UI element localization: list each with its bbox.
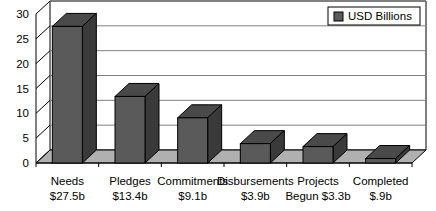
y-tick-4 xyxy=(36,51,50,64)
x-category-value-3: $3.9b xyxy=(241,190,270,202)
bar-chart-figure: 051015202530Needs$27.5bPledges$13.4bComm… xyxy=(0,0,436,211)
x-category-value-1: $13.4b xyxy=(112,190,147,202)
x-category-value-2: $9.1b xyxy=(178,190,207,202)
bar-front-face-0 xyxy=(52,26,82,163)
bar-1 xyxy=(115,83,159,163)
bar-2 xyxy=(178,105,222,163)
y-tick-label-4: 20 xyxy=(16,58,29,70)
bar-front-face-1 xyxy=(115,96,145,163)
y-tick-3 xyxy=(36,76,50,89)
legend-swatch-usd-billions xyxy=(334,12,343,21)
y-tick-label-6: 30 xyxy=(16,8,29,20)
x-category-value-5: $.9b xyxy=(369,190,391,202)
x-category-label-1: Pledges xyxy=(109,175,151,187)
y-tick-label-5: 25 xyxy=(16,33,29,45)
bar-side-face-1 xyxy=(145,83,159,163)
bar-front-face-2 xyxy=(178,118,208,163)
y-tick-2 xyxy=(36,100,50,113)
y-tick-1 xyxy=(36,125,50,138)
bar-0 xyxy=(52,13,96,163)
bar-front-face-5 xyxy=(366,159,396,163)
bar-front-face-3 xyxy=(240,144,270,163)
legend-label-usd-billions: USD Billions xyxy=(348,10,412,22)
bar-front-face-4 xyxy=(303,147,333,163)
y-tick-6 xyxy=(36,1,50,14)
legend: USD Billions xyxy=(328,7,420,25)
y-tick-label-1: 5 xyxy=(23,132,29,144)
x-category-value-0: $27.5b xyxy=(50,190,85,202)
y-tick-5 xyxy=(36,26,50,39)
y-tick-label-3: 15 xyxy=(16,83,29,95)
x-category-label-4: Projects xyxy=(297,175,339,187)
y-tick-label-2: 10 xyxy=(16,107,29,119)
x-category-label-0: Needs xyxy=(51,175,84,187)
y-tick-label-0: 0 xyxy=(23,157,29,169)
x-category-value-4: Begun $3.3b xyxy=(285,190,350,202)
bar-side-face-0 xyxy=(82,13,96,163)
x-category-label-3: Disbursements xyxy=(217,175,294,187)
chart-canvas: 051015202530Needs$27.5bPledges$13.4bComm… xyxy=(0,0,436,211)
x-category-label-5: Completed xyxy=(353,175,409,187)
